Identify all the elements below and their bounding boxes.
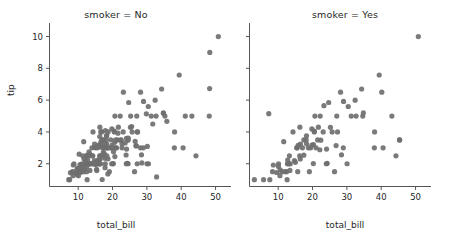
- scatter-point: [159, 86, 164, 91]
- scatter-point: [328, 125, 333, 130]
- scatter-point: [133, 139, 138, 144]
- scatter-point: [67, 177, 72, 182]
- scatter-point: [183, 113, 188, 118]
- scatter-point: [290, 129, 295, 134]
- scatter-point: [146, 161, 151, 166]
- scatter-point: [112, 113, 117, 118]
- scatter-point: [150, 121, 155, 126]
- scatter-point: [207, 113, 212, 118]
- scatter-point: [181, 145, 186, 150]
- scatter-point: [116, 125, 121, 130]
- scatter-point: [139, 152, 144, 157]
- scatter-point: [381, 145, 386, 150]
- scatter-point: [341, 99, 346, 104]
- scatter-point: [334, 113, 339, 118]
- scatter-point: [164, 119, 169, 124]
- scatter-point: [359, 86, 364, 91]
- scatter-plot-smoker-yes: 1020304050: [229, 0, 461, 234]
- scatter-point: [325, 161, 330, 166]
- x-tick-label: 10: [73, 192, 84, 202]
- data-points: [66, 34, 221, 182]
- scatter-point: [372, 145, 377, 150]
- scatter-point: [311, 161, 316, 166]
- scatter-point: [207, 50, 212, 55]
- scatter-point: [379, 90, 384, 95]
- x-tick-label: 10: [273, 192, 284, 202]
- scatter-point: [134, 113, 139, 118]
- scatter-point: [293, 160, 298, 165]
- scatter-point: [346, 104, 351, 109]
- y-tick-label: 4: [38, 127, 43, 137]
- scatter-point: [71, 161, 76, 166]
- scatter-point: [112, 154, 117, 159]
- scatter-point: [288, 161, 293, 166]
- x-tick-label: 20: [307, 192, 318, 202]
- scatter-point: [317, 147, 322, 152]
- scatter-point: [287, 153, 292, 158]
- scatter-point: [130, 129, 135, 134]
- y-tick-label: 6: [38, 95, 43, 105]
- scatter-point: [193, 153, 198, 158]
- scatter-point: [298, 156, 303, 161]
- scatter-point: [135, 129, 140, 134]
- scatter-point: [341, 145, 346, 150]
- scatter-point: [132, 169, 137, 174]
- scatter-point: [172, 145, 177, 150]
- scatter-point: [324, 147, 329, 152]
- scatter-point: [145, 144, 150, 149]
- scatter-point: [121, 90, 126, 95]
- scatter-point: [153, 98, 158, 103]
- scatter-point: [154, 174, 159, 179]
- scatter-point: [87, 168, 92, 173]
- scatter-point: [304, 133, 309, 138]
- scatter-point: [118, 113, 123, 118]
- scatter-point: [321, 103, 326, 108]
- scatter-point: [207, 86, 212, 91]
- scatter-point: [316, 125, 321, 130]
- scatter-point: [267, 177, 272, 182]
- scatter-point: [326, 100, 331, 105]
- scatter-point: [339, 152, 344, 157]
- scatter-point: [297, 125, 302, 130]
- scatter-point: [344, 161, 349, 166]
- x-tick-label: 40: [176, 192, 187, 202]
- scatter-point: [216, 34, 221, 39]
- x-tick-label: 50: [410, 192, 421, 202]
- scatter-point: [287, 168, 292, 173]
- scatter-point: [285, 177, 290, 182]
- scatter-point: [126, 161, 131, 166]
- scatter-point: [81, 139, 86, 144]
- scatter-point: [397, 137, 402, 142]
- scatter-point: [121, 129, 126, 134]
- scatter-point: [307, 169, 312, 174]
- scatter-point: [97, 125, 102, 130]
- scatter-point: [333, 143, 338, 148]
- scatter-point: [393, 153, 398, 158]
- scatter-point: [389, 113, 394, 118]
- scatter-point: [330, 129, 335, 134]
- scatter-point: [126, 136, 131, 141]
- scatter-point: [124, 147, 129, 152]
- x-tick-label: 40: [376, 192, 387, 202]
- scatter-point: [141, 99, 146, 104]
- scatter-point: [107, 169, 112, 174]
- scatter-point: [177, 72, 182, 77]
- figure-canvas: smoker = No 1020304050246810 total_bill …: [0, 0, 461, 234]
- x-tick-label: 30: [141, 192, 152, 202]
- scatter-point: [312, 113, 317, 118]
- x-tick-label: 50: [210, 192, 221, 202]
- scatter-point: [172, 129, 177, 134]
- scatter-point: [119, 145, 124, 150]
- scatter-point: [135, 161, 140, 166]
- scatter-point: [123, 152, 128, 157]
- scatter-point: [361, 110, 366, 115]
- scatter-point: [85, 177, 90, 182]
- scatter-point: [295, 169, 300, 174]
- facet-panel-smoker-yes: smoker = Yes 1020304050 total_bill: [229, 0, 461, 234]
- scatter-point: [90, 153, 95, 158]
- scatter-point: [332, 169, 337, 174]
- scatter-point: [335, 129, 340, 134]
- scatter-point: [105, 156, 110, 161]
- scatter-point: [301, 153, 306, 158]
- y-axis-label-left: tip: [6, 84, 16, 96]
